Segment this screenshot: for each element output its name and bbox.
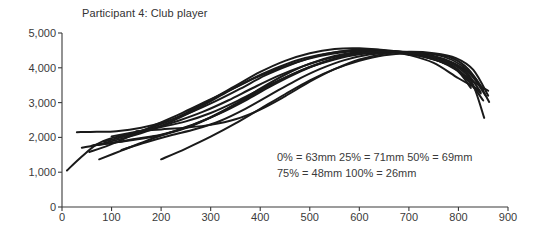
series-line [121,52,489,150]
annotation-line-2: 75% = 48mm 100% = 26mm [277,166,472,182]
annotation-line-1: 0% = 63mm 25% = 71mm 50% = 69mm [277,150,472,166]
measurement-annotation: 0% = 63mm 25% = 71mm 50% = 69mm 75% = 48… [277,150,472,181]
chart-container: Participant 4: Club player 01,0002,0003,… [0,0,535,240]
plot-area [0,0,535,240]
series-line [99,51,476,159]
